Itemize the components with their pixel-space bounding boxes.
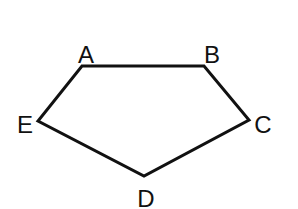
pentagon-diagram: A B C D E — [0, 0, 298, 209]
vertex-label-e: E — [17, 111, 33, 138]
vertex-label-d: D — [137, 185, 154, 209]
pentagon-shape — [38, 66, 249, 176]
vertex-label-b: B — [204, 41, 220, 68]
vertex-label-c: C — [254, 111, 271, 138]
vertex-label-a: A — [78, 41, 94, 68]
